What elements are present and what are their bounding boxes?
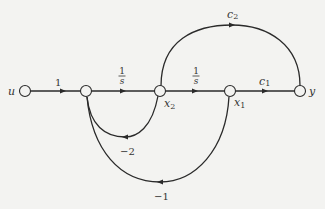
branch-x2-y [161, 25, 300, 86]
node-x2 [155, 86, 166, 97]
node-u [20, 86, 31, 97]
arrow-icon [192, 89, 198, 94]
branch-x2-n2 [87, 96, 158, 137]
signal-flow-graph: u x2 x1 y 1 1 s 1 s c1 c2 −2 −1 [0, 0, 325, 209]
gain-label-1-over-s-a: 1 s [119, 66, 126, 86]
gain-label-1-over-s-b: 1 s [193, 66, 200, 86]
node-label-x2: x2 [164, 97, 175, 111]
arrow-icon [262, 89, 268, 94]
node-label-y: y [308, 85, 316, 98]
gain-label-c2: c2 [227, 8, 238, 21]
arrow-icon [60, 89, 66, 94]
arrow-icon [229, 23, 235, 28]
gain-label-1: 1 [55, 77, 61, 88]
svg-text:1: 1 [193, 66, 199, 76]
node-x1 [225, 86, 236, 97]
branch-x1-n2 [87, 97, 229, 183]
gain-label-minus-2: −2 [120, 146, 135, 157]
arrow-icon [122, 135, 128, 140]
arrow-icon [157, 180, 163, 185]
node-label-u: u [8, 85, 15, 98]
gain-label-minus-1: −1 [154, 191, 169, 202]
svg-text:s: s [120, 76, 125, 86]
node-y [295, 86, 306, 97]
node-label-x1: x1 [234, 96, 245, 110]
arrow-icon [120, 89, 126, 94]
svg-text:s: s [194, 76, 199, 86]
gain-label-c1: c1 [259, 75, 270, 88]
node-n2 [81, 86, 92, 97]
svg-text:1: 1 [119, 66, 125, 76]
